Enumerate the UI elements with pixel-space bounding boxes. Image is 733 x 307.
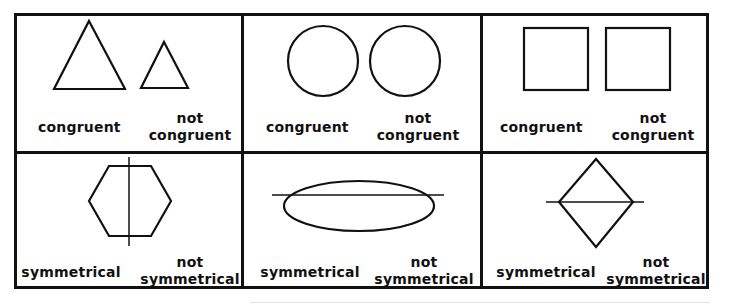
label-symmetrical: symmetrical	[491, 264, 601, 280]
label-not: not	[601, 254, 711, 270]
label-symmetrical-negative: symmetrical	[601, 271, 711, 287]
faint-rule	[250, 302, 710, 303]
